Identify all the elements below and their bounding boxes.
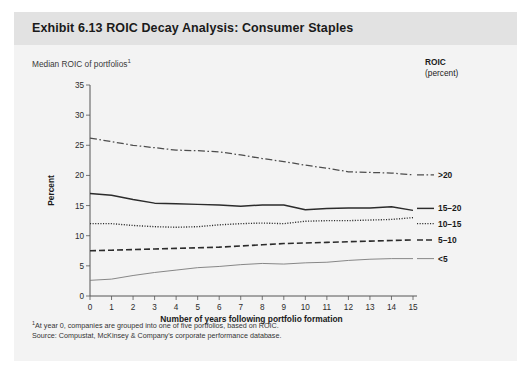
series-line-1015 (90, 218, 413, 228)
x-tick-label: 7 (238, 303, 243, 312)
y-tick-label: 35 (75, 81, 85, 90)
x-tick-label: 9 (282, 303, 287, 312)
x-tick-label: 5 (195, 303, 200, 312)
y-tick-label: 30 (75, 111, 85, 120)
x-tick-label: 11 (323, 303, 332, 312)
legend-label-5: <5 (438, 254, 448, 264)
x-tick-label: 4 (174, 303, 179, 312)
legend-label-510: 5–10 (438, 235, 457, 245)
x-tick-label: 13 (365, 303, 375, 312)
chart-series-group (90, 138, 413, 280)
y-tick-label: 15 (75, 202, 85, 211)
x-tick-label: 3 (152, 303, 157, 312)
footnotes: 1At year 0, companies are grouped into o… (32, 319, 281, 341)
x-tick-label: 12 (344, 303, 354, 312)
legend-label-1015: 10–15 (438, 219, 462, 229)
x-axis-ticks: 0123456789101112131415 (88, 296, 418, 312)
series-line-1520 (90, 194, 413, 211)
series-line-5 (90, 259, 413, 281)
x-tick-label: 0 (88, 303, 93, 312)
exhibit-panel: Exhibit 6.13 ROIC Decay Analysis: Consum… (14, 12, 517, 361)
roic-decay-line-chart: 05101520253035Percent0123456789101112131… (14, 12, 517, 361)
y-tick-label: 0 (79, 292, 84, 301)
series-line-510 (90, 240, 413, 251)
y-axis-title: Percent (46, 175, 56, 206)
x-tick-label: 10 (301, 303, 311, 312)
x-tick-label: 15 (408, 303, 418, 312)
series-line-20 (90, 138, 413, 175)
y-tick-label: 5 (79, 262, 84, 271)
footnote-1: 1At year 0, companies are grouped into o… (32, 319, 281, 331)
legend-label-1520: 15–20 (438, 203, 462, 213)
y-tick-label: 10 (75, 232, 85, 241)
x-tick-label: 2 (131, 303, 136, 312)
footnote-source: Source: Compustat, McKinsey & Company's … (32, 331, 281, 341)
legend-label-20: >20 (438, 170, 453, 180)
x-tick-label: 8 (260, 303, 265, 312)
chart-plot-area: 05101520253035Percent0123456789101112131… (14, 12, 517, 361)
x-tick-label: 6 (217, 303, 222, 312)
series-labels-group: >2015–2010–155–10<5 (417, 170, 462, 264)
x-tick-label: 1 (109, 303, 114, 312)
footnote-1-text: At year 0, companies are grouped into on… (35, 321, 279, 330)
x-tick-label: 14 (387, 303, 397, 312)
y-tick-label: 20 (75, 171, 85, 180)
y-axis-ticks: 05101520253035 (75, 81, 90, 301)
y-tick-label: 25 (75, 141, 85, 150)
